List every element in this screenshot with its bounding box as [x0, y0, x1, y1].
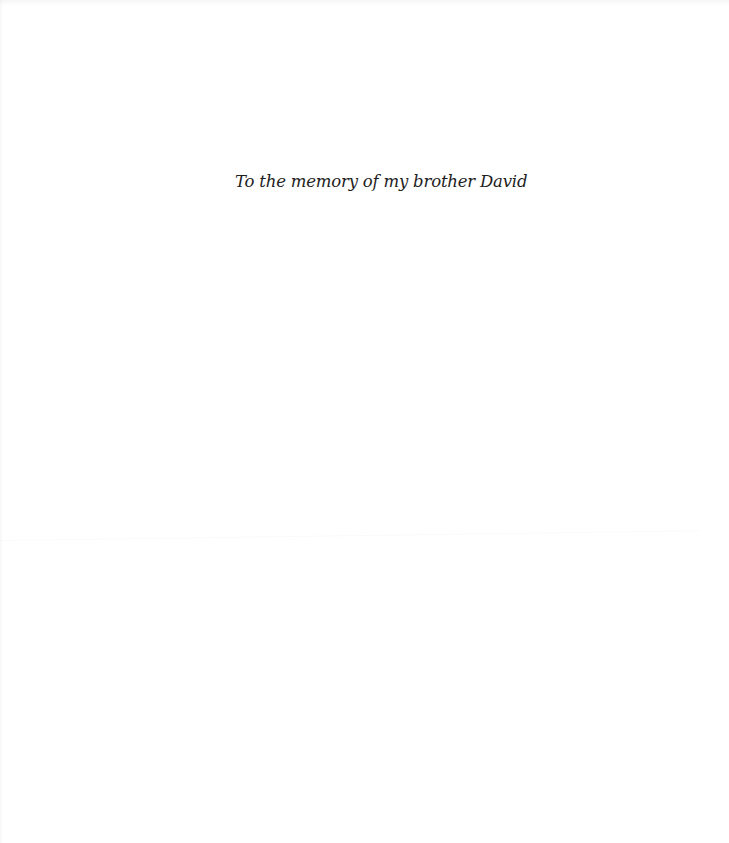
- book-page: To the memory of my brother David: [0, 0, 729, 843]
- scan-edge-shadow: [0, 0, 3, 843]
- dedication-text: To the memory of my brother David: [235, 171, 527, 193]
- scan-bleed-through: [0, 0, 729, 6]
- scan-artifact-line: [0, 530, 700, 541]
